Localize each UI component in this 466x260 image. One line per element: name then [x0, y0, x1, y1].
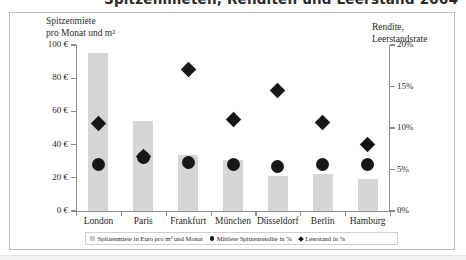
right-axis-caption-line1: Rendite,: [372, 22, 427, 34]
legend-label-spitzenrendite: Mittlere Spitzenrendite in %: [217, 235, 292, 242]
bar-swatch-icon: [90, 236, 95, 241]
diamond-marker-icon: [298, 236, 304, 242]
left-axis-caption: Spitzenmiete pro Monat und m²: [46, 16, 115, 39]
page-title: Spitzenmieten, Renditen und Leerstand 20…: [104, 0, 458, 7]
circle-marker-icon: [210, 236, 215, 241]
right-axis-caption: Rendite, Leerstandsrate: [372, 22, 427, 45]
legend-label-spitzenmiete: Spitzenmiete in Euro pro m² und Monat: [98, 235, 203, 242]
chart-page: Spitzenmieten, Renditen und Leerstand 20…: [0, 0, 466, 260]
left-axis-caption-line1: Spitzenmiete: [46, 16, 115, 28]
chart-title-strip: Spitzenmieten, Renditen und Leerstand 20…: [0, 0, 466, 11]
right-axis-caption-line2: Leerstandsrate: [372, 34, 427, 46]
chart-legend: Spitzenmiete in Euro pro m² und Monat Mi…: [85, 232, 398, 245]
legend-label-leerstand: Leerstand in %: [305, 235, 345, 242]
legend-item-spitzenmiete: Spitzenmiete in Euro pro m² und Monat: [90, 235, 203, 242]
left-axis-caption-line2: pro Monat und m²: [46, 28, 115, 40]
page-bottom-edge: [0, 255, 466, 260]
legend-item-leerstand: Leerstand in %: [299, 235, 345, 242]
legend-item-spitzenrendite: Mittlere Spitzenrendite in %: [210, 235, 292, 242]
figure-frame: [9, 12, 455, 250]
